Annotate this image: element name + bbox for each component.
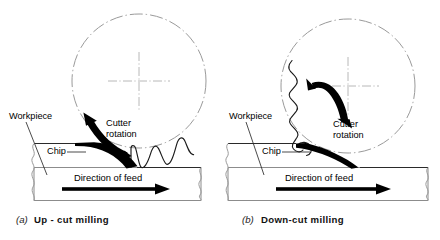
feed-arrow-down <box>276 183 391 194</box>
direction-of-feed-label-down: Direction of feed <box>285 172 353 183</box>
caption-text-up: Up - cut milling <box>34 214 109 225</box>
chip-shape-down <box>296 143 359 169</box>
feed-arrow-up <box>62 183 170 194</box>
panel-up-cut: Cutter rotation Workpiece Chip Direction… <box>9 14 206 225</box>
scalloped-surface-down <box>289 61 303 152</box>
chip-label-down: Chip <box>262 146 281 156</box>
cutter-rotation-label-line2-down: rotation <box>333 130 364 140</box>
cutter-rotation-label-line1-up: Cutter <box>106 118 131 128</box>
direction-of-feed-label-up: Direction of feed <box>74 172 142 183</box>
workpiece-label-down: Workpiece <box>229 111 272 121</box>
cutter-rotation-label-line1-down: Cutter <box>333 119 358 129</box>
chip-label-up: Chip <box>47 146 66 156</box>
cutter-rotation-label-line2-up: rotation <box>106 129 137 139</box>
caption-letter-down: (b) <box>242 214 254 225</box>
caption-letter-up: (a) <box>16 214 28 225</box>
milling-figure: Cutter rotation Workpiece Chip Direction… <box>0 0 440 240</box>
workpiece-label-up: Workpiece <box>9 111 52 121</box>
scalloped-surface-up <box>131 138 194 168</box>
panel-down-cut: Cutter rotation Workpiece Chip Direction… <box>226 19 428 225</box>
caption-text-down: Down-cut milling <box>261 214 344 225</box>
